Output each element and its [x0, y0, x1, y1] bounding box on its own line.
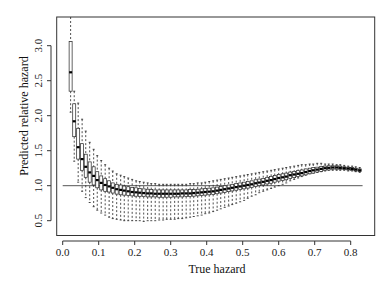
iqr-box [77, 128, 80, 159]
box-item [192, 184, 195, 217]
y-axis: 0.51.01.52.02.53.0 [32, 38, 51, 227]
box-item [69, 17, 72, 112]
box-item [250, 174, 253, 196]
box-item [258, 172, 261, 192]
box-item [150, 184, 153, 221]
box-item [135, 181, 138, 221]
y-tick-label: 2.5 [32, 73, 44, 87]
box-item [173, 184, 176, 219]
box-item [142, 182, 145, 221]
x-tick-label: 0.7 [308, 246, 322, 258]
box-item [354, 167, 357, 172]
box-item [254, 173, 257, 195]
box-item [277, 169, 280, 186]
box-item [246, 175, 249, 199]
x-tick-label: 0.1 [92, 246, 106, 258]
x-axis-title: True hazard [188, 262, 245, 276]
y-tick-label: 0.5 [32, 213, 44, 227]
box-item [324, 164, 327, 171]
box-item [243, 175, 246, 200]
y-tick-label: 1.5 [32, 143, 44, 157]
box-item [96, 156, 99, 211]
box-item [216, 180, 219, 210]
box-item [262, 172, 265, 192]
box-item [73, 91, 76, 161]
box-item [154, 184, 157, 221]
box-item [239, 176, 242, 202]
box-item [84, 131, 87, 198]
box-item [165, 184, 168, 219]
y-tick-label: 3.0 [32, 38, 44, 52]
box-item [227, 178, 230, 206]
box-item [115, 174, 118, 220]
box-item [223, 179, 226, 208]
box-item [169, 184, 172, 219]
box-item [320, 163, 323, 171]
box-item [235, 177, 238, 204]
box-item [104, 165, 107, 215]
x-tick-label: 0.5 [236, 246, 250, 258]
box-item [189, 184, 192, 218]
box-item [281, 168, 284, 184]
box-item [308, 164, 311, 174]
box-item [181, 184, 184, 218]
box-item [81, 119, 84, 191]
box-series [69, 17, 361, 221]
iqr-box [81, 144, 84, 171]
box-item [343, 165, 346, 170]
box-item [331, 164, 334, 170]
box-item [293, 166, 296, 179]
box-item [138, 182, 141, 221]
box-item [200, 183, 203, 215]
box-item [347, 166, 350, 171]
box-item [231, 177, 234, 204]
box-item [312, 164, 315, 173]
box-item [219, 179, 222, 208]
box-item [339, 165, 342, 171]
box-item [111, 171, 114, 219]
plot-area-frame [57, 17, 375, 236]
box-item [289, 167, 292, 181]
x-tick-label: 0.8 [344, 246, 358, 258]
box-item [297, 165, 300, 178]
box-item [335, 165, 338, 171]
x-axis: 0.00.10.20.30.40.50.60.70.8 [56, 241, 358, 258]
box-item [108, 168, 111, 217]
box-item [208, 182, 211, 214]
box-item [327, 164, 330, 170]
box-item [92, 149, 95, 206]
box-item [158, 184, 161, 220]
x-tick-label: 0.0 [56, 246, 70, 258]
box-item [123, 177, 126, 221]
boxplot-chart: 0.00.10.20.30.40.50.60.70.8 0.51.01.52.0… [0, 0, 392, 285]
x-tick-label: 0.3 [164, 246, 178, 258]
box-item [300, 165, 303, 177]
box-item [100, 161, 103, 214]
box-item [304, 165, 307, 176]
box-item [316, 163, 319, 172]
box-item [162, 184, 165, 220]
y-axis-title: Predicted relative hazard [17, 56, 31, 175]
y-tick-label: 2.0 [32, 108, 44, 122]
x-tick-label: 0.2 [128, 246, 142, 258]
box-item [177, 184, 180, 218]
box-item [351, 166, 354, 171]
box-item [77, 103, 80, 182]
box-item [196, 183, 199, 216]
x-tick-label: 0.4 [200, 246, 214, 258]
box-item [146, 183, 149, 221]
box-item [273, 170, 276, 188]
box-item [266, 171, 269, 190]
box-item [358, 168, 361, 173]
box-item [285, 168, 288, 183]
box-item [204, 182, 207, 214]
x-tick-label: 0.6 [272, 246, 286, 258]
iqr-box [69, 42, 72, 92]
box-item [119, 175, 122, 220]
box-item [185, 184, 188, 218]
y-tick-label: 1.0 [32, 178, 44, 192]
box-item [127, 178, 130, 221]
box-item [88, 142, 91, 202]
